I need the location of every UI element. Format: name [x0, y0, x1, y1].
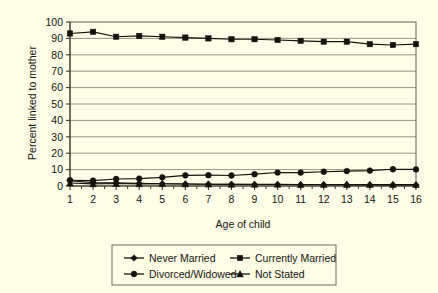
line-chart: 0102030405060708090100 12345678910111213… [0, 0, 438, 293]
y-tick-label: 60 [51, 81, 63, 93]
data-point [160, 34, 165, 39]
x-tick-label: 1 [67, 193, 73, 205]
y-tick-label: 0 [57, 180, 63, 192]
chart-svg: 0102030405060708090100 12345678910111213… [0, 0, 438, 293]
data-point [275, 170, 281, 176]
x-tick-label: 12 [318, 193, 330, 205]
data-point [182, 172, 188, 178]
y-tick-label: 70 [51, 65, 63, 77]
data-point [67, 31, 72, 36]
data-point [159, 174, 165, 180]
x-tick-label: 3 [113, 193, 119, 205]
data-point [413, 41, 418, 46]
data-point [183, 35, 188, 40]
y-tick-label: 40 [51, 114, 63, 126]
y-tick-label: 80 [51, 49, 63, 61]
x-tick-label: 11 [295, 193, 306, 205]
data-point [252, 37, 257, 42]
data-point [344, 168, 350, 174]
y-tick-label: 90 [51, 32, 63, 44]
data-point [229, 173, 235, 179]
x-tick-label: 4 [136, 193, 142, 205]
data-point [367, 168, 373, 174]
data-point [344, 39, 349, 44]
data-point [298, 38, 303, 43]
x-tick-label: 5 [159, 193, 165, 205]
data-point [390, 42, 395, 47]
legend-marker [131, 271, 137, 277]
y-tick-label: 100 [45, 16, 63, 28]
data-point [275, 37, 280, 42]
x-tick-label: 2 [90, 193, 96, 205]
x-tick-label: 7 [205, 193, 211, 205]
x-tick-label: 6 [182, 193, 188, 205]
data-point [90, 29, 95, 34]
data-point [390, 166, 396, 172]
legend-item-label: Not Stated [255, 268, 305, 280]
data-point [206, 172, 212, 178]
chart-legend: Never MarriedCurrently MarriedDivorced/W… [112, 245, 336, 285]
data-point [229, 37, 234, 42]
x-axis-title: Age of child [216, 218, 271, 230]
x-tick-label: 15 [387, 193, 399, 205]
data-point [367, 41, 372, 46]
x-tick-label: 16 [410, 193, 422, 205]
y-tick-label: 30 [51, 131, 63, 143]
legend-item-label: Divorced/Widowed [149, 268, 237, 280]
data-point [321, 39, 326, 44]
data-point [137, 33, 142, 38]
legend-item-label: Never Married [149, 252, 216, 264]
y-tick-label: 20 [51, 147, 63, 159]
data-point [252, 171, 258, 177]
x-tick-label: 13 [341, 193, 353, 205]
x-tick-label: 10 [272, 193, 284, 205]
x-tick-label: 8 [229, 193, 235, 205]
data-point [113, 34, 118, 39]
x-tick-label: 9 [252, 193, 258, 205]
legend-marker [237, 255, 242, 260]
data-point [298, 170, 304, 176]
legend-item-label: Currently Married [255, 252, 336, 264]
data-point [206, 36, 211, 41]
y-tick-label: 50 [51, 98, 63, 110]
y-axis-title: Percent linked to mother [26, 46, 38, 160]
x-tick-label: 14 [364, 193, 376, 205]
data-point [321, 169, 327, 175]
y-tick-label: 10 [51, 163, 63, 175]
data-point [413, 167, 419, 173]
